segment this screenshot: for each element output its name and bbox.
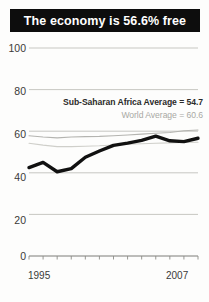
plot-area: 100 80 60 40 20 0 1995 2007 Sub-Saharan … bbox=[0, 36, 209, 302]
chart-figure: The economy is 56.6% free 100 80 60 40 2… bbox=[0, 0, 209, 302]
xtick-label-start: 1995 bbox=[28, 270, 50, 281]
ytick-label-60: 60 bbox=[0, 128, 26, 140]
ytick-label-100: 100 bbox=[0, 42, 26, 54]
series-line-0 bbox=[29, 136, 198, 172]
annotation-world-average: World Average = 60.6 bbox=[121, 110, 203, 120]
title-banner: The economy is 56.6% free bbox=[10, 9, 200, 32]
ytick-label-0: 0 bbox=[0, 250, 26, 262]
chart-canvas bbox=[0, 36, 209, 302]
xtick-label-end: 2007 bbox=[166, 270, 188, 281]
page-title: The economy is 56.6% free bbox=[24, 14, 186, 28]
ytick-label-40: 40 bbox=[0, 171, 26, 183]
annotation-ssa-average: Sub-Saharan Africa Average = 54.7 bbox=[63, 97, 203, 107]
ytick-label-80: 80 bbox=[0, 85, 26, 97]
ytick-label-20: 20 bbox=[0, 214, 26, 226]
